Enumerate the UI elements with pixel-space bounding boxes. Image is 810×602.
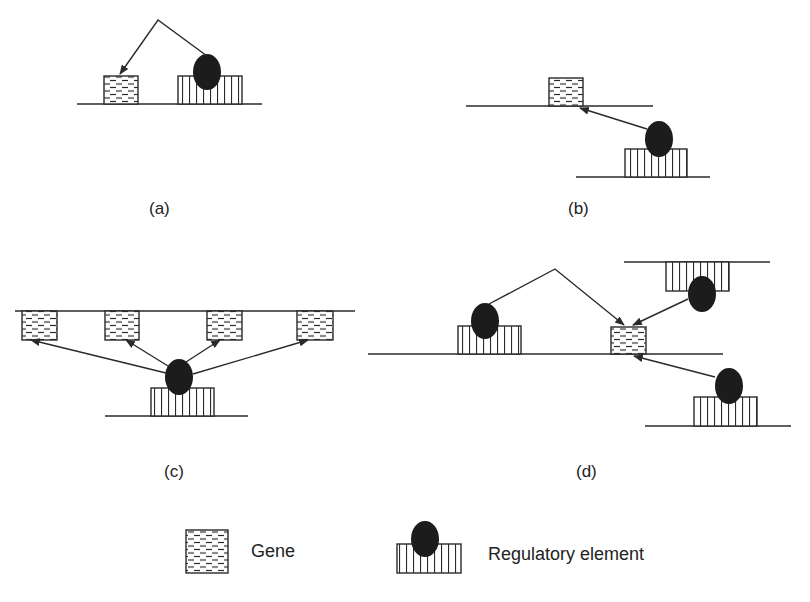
regulation-arrow xyxy=(580,108,647,129)
regulation-arrow-left xyxy=(489,269,624,325)
panel-label-c: (c) xyxy=(164,462,184,482)
gene-3 xyxy=(207,311,242,340)
gene-4 xyxy=(297,311,333,340)
panel-b xyxy=(466,78,710,177)
panel-d xyxy=(368,262,791,426)
legend-gene-label: Gene xyxy=(251,541,295,562)
regulation-arrow-3 xyxy=(186,340,220,362)
regulatory-element xyxy=(151,359,214,416)
legend-gene-icon xyxy=(186,530,228,573)
diagram-canvas xyxy=(0,0,810,602)
legend-regulatory-element-icon xyxy=(397,521,461,573)
panel-label-a: (a) xyxy=(149,199,170,219)
gene xyxy=(104,76,138,104)
regulation-arrow-4 xyxy=(193,340,308,374)
gene-1 xyxy=(22,311,57,340)
regulation-arrow-1 xyxy=(31,340,166,373)
regulation-arrow-2 xyxy=(126,340,168,366)
gene xyxy=(611,327,646,354)
legend-regulatory-label: Regulatory element xyxy=(488,544,644,565)
regulatory-element-bottom-right xyxy=(694,368,757,426)
panel-label-d: (d) xyxy=(576,462,597,482)
legend xyxy=(186,521,461,573)
regulatory-element xyxy=(625,121,687,177)
regulatory-element-left xyxy=(458,303,521,354)
gene-2 xyxy=(105,311,139,340)
panel-a xyxy=(77,20,262,104)
panel-c xyxy=(15,311,355,416)
panel-label-b: (b) xyxy=(568,199,589,219)
regulation-arrow-top-right xyxy=(633,299,688,325)
regulation-arrow-bottom-right xyxy=(634,356,715,377)
regulatory-element xyxy=(178,54,242,104)
gene xyxy=(549,78,583,106)
